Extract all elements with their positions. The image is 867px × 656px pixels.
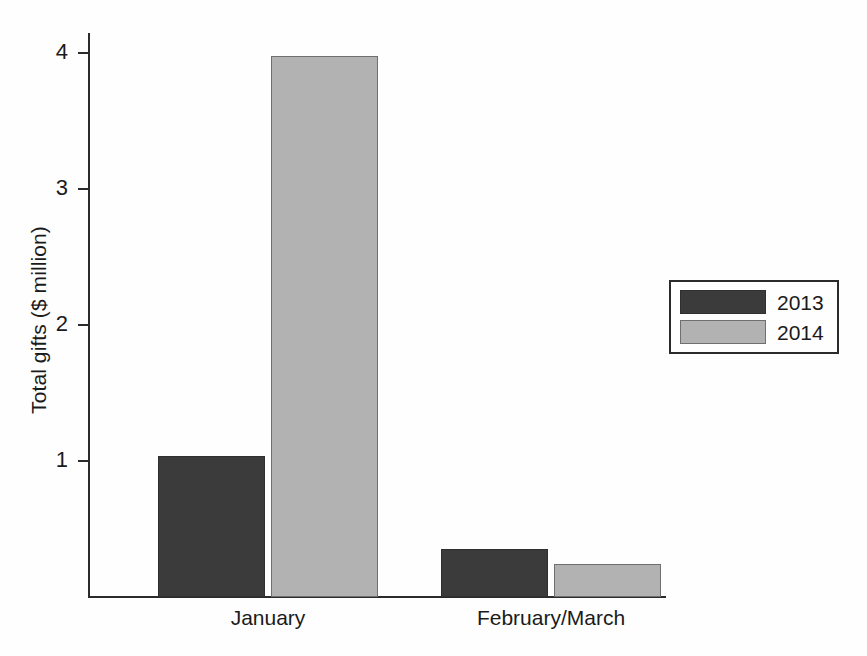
legend-item-2014: 2014 xyxy=(680,319,828,345)
y-tick-label: 1 xyxy=(0,449,68,473)
y-tick-label-text: 3 xyxy=(0,177,68,199)
y-tick-label: 4 xyxy=(0,41,68,65)
legend-label-2013: 2013 xyxy=(777,292,824,313)
legend-swatch-2014 xyxy=(680,320,766,344)
bar-2014-january xyxy=(271,56,378,597)
bar-2013-february-march xyxy=(441,549,548,597)
y-tick-label-text: 2 xyxy=(0,313,68,335)
y-tick-label: 3 xyxy=(0,177,68,201)
legend-swatch-2013 xyxy=(680,290,766,314)
plot-area xyxy=(88,33,666,597)
y-tick-label: 2 xyxy=(0,313,68,337)
x-tick-label: January xyxy=(231,606,306,630)
legend-label-2014: 2014 xyxy=(777,322,824,343)
legend: 2013 2014 xyxy=(669,280,839,354)
legend-item-2013: 2013 xyxy=(680,289,828,315)
x-tick-label: February/March xyxy=(477,606,625,630)
y-tick-label-text: 4 xyxy=(0,41,68,63)
bar-2013-january xyxy=(158,456,265,597)
bar-chart: Total gifts ($ million) 1234 JanuaryFebr… xyxy=(0,0,867,656)
y-tick-label-text: 1 xyxy=(0,449,68,471)
bar-2014-february-march xyxy=(554,564,661,597)
